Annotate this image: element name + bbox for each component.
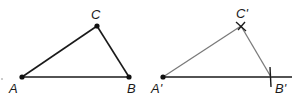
triangle-a-prime-b-prime-c-prime: A' B' C' xyxy=(150,6,292,96)
segment-a-prime-c-prime xyxy=(163,26,241,77)
point-b xyxy=(126,74,131,79)
label-a: A xyxy=(8,81,18,96)
point-a xyxy=(19,74,24,79)
label-c: C xyxy=(91,7,101,22)
arc-mark-b-prime xyxy=(270,67,271,87)
segment-ac xyxy=(22,26,97,77)
segment-bc xyxy=(97,26,129,77)
triangle-abc: A B C xyxy=(8,7,136,96)
label-a-prime: A' xyxy=(150,81,163,96)
point-c xyxy=(94,23,99,28)
label-b-prime: B' xyxy=(275,81,287,96)
point-a-prime xyxy=(160,74,165,79)
diagram-canvas: A B C A' B' C' xyxy=(0,0,308,96)
segment-b-prime-c-prime xyxy=(241,26,271,77)
label-c-prime: C' xyxy=(236,6,248,21)
label-b: B xyxy=(127,81,136,96)
